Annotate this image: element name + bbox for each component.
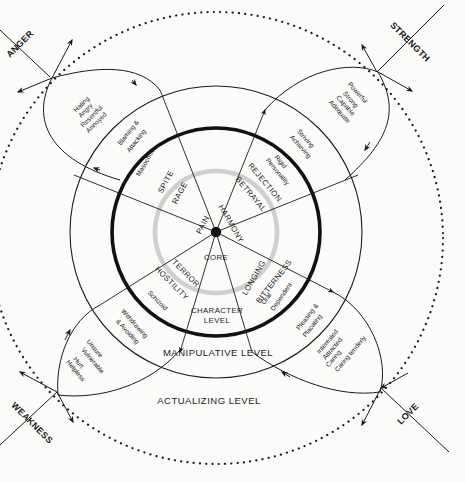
diagram-canvas: CORE PAIN HARMONY SPITE RAGE Masochist B… <box>0 0 465 482</box>
core-dot <box>211 227 221 237</box>
core-word-harmony: HARMONY <box>217 203 246 245</box>
character-level-line-2: LEVEL <box>204 316 231 325</box>
character-level-line-1: CHARACTER <box>191 306 243 315</box>
corner-label-strength: STRENGTH <box>388 20 432 64</box>
core-label: CORE <box>204 253 228 262</box>
actualizing-level-label: ACTUALIZING LEVEL <box>157 395 261 406</box>
corner-label-weakness: WEAKNESS <box>9 400 55 446</box>
manipulative-level-label: MANIPULATIVE LEVEL <box>163 347 273 358</box>
ll-character: Schizoid <box>146 289 169 312</box>
core-word-pain: PAIN <box>194 214 211 235</box>
ul-inner-2: RAGE <box>170 180 189 205</box>
corner-label-anger: ANGER <box>4 28 35 59</box>
